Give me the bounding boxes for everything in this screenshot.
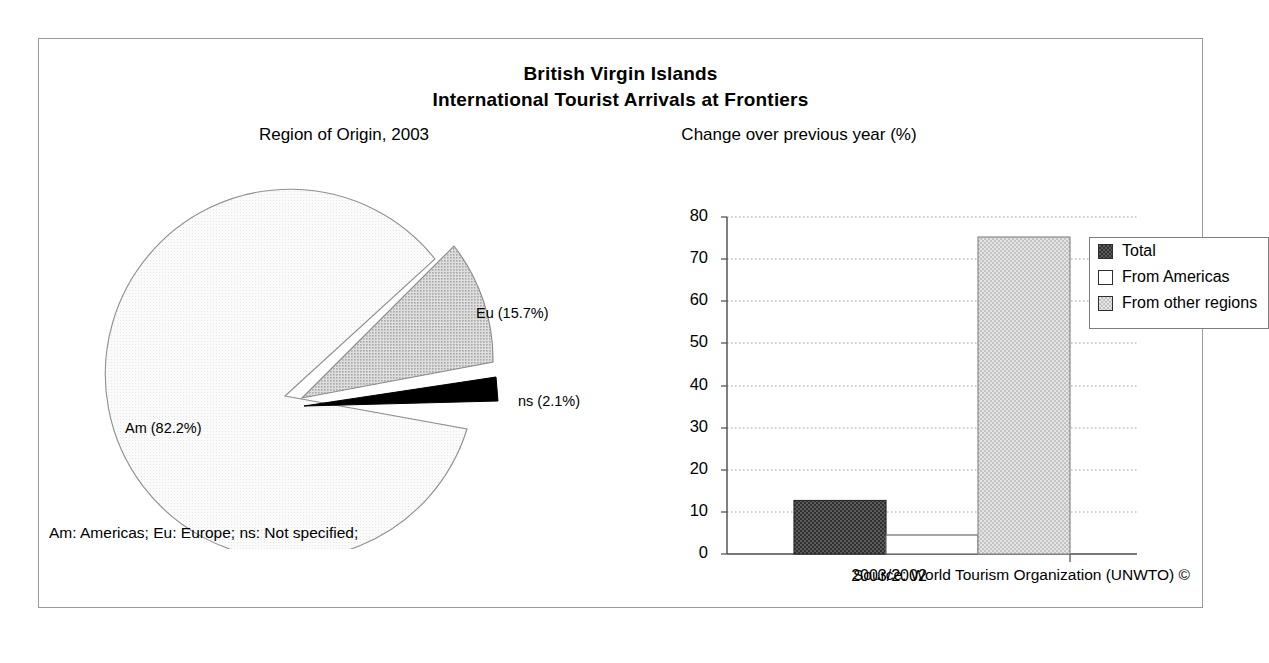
bar-from-other-regions (978, 237, 1070, 554)
pie-label-eu: Eu (15.7%) (476, 305, 549, 321)
pie-chart (99, 149, 619, 549)
legend-swatch-from-other-regions (1098, 296, 1113, 311)
legend-item-from-other-regions: From other regions (1090, 290, 1268, 316)
bar-from-americas (886, 535, 978, 554)
y-tick-label-80: 80 (674, 206, 708, 225)
y-tick-label-30: 30 (674, 417, 708, 436)
chart-title-line-1: British Virgin Islands (39, 63, 1202, 85)
y-tick-label-40: 40 (674, 375, 708, 394)
legend-swatch-from-americas (1098, 270, 1113, 285)
chart-frame: British Virgin Islands International Tou… (38, 38, 1203, 608)
chart-title-line-2: International Tourist Arrivals at Fronti… (39, 89, 1202, 111)
legend-item-total: Total (1090, 238, 1268, 264)
bar-chart-legend: Total From Americas From other regions (1089, 237, 1269, 329)
y-tick-label-60: 60 (674, 290, 708, 309)
pie-label-am: Am (82.2%) (125, 420, 202, 436)
gridlines (727, 217, 1137, 512)
source-attribution: Source: World Tourism Organization (UNWT… (853, 566, 1190, 584)
legend-label-total: Total (1122, 242, 1156, 260)
pie-chart-subtitle: Region of Origin, 2003 (189, 125, 499, 145)
pie-chart-svg (99, 149, 619, 549)
bar-chart: 80 70 60 50 40 30 20 10 0 2003/2002 Tota… (604, 134, 1194, 574)
legend-label-from-americas: From Americas (1122, 268, 1230, 286)
y-tick-label-70: 70 (674, 248, 708, 267)
footnote-abbreviations: Am: Americas; Eu: Europe; ns: Not specif… (49, 524, 358, 542)
bar-total (794, 501, 886, 555)
legend-label-from-other-regions: From other regions (1122, 294, 1257, 312)
y-axis-ticks (721, 217, 727, 554)
y-tick-label-0: 0 (674, 543, 708, 562)
pie-label-ns: ns (2.1%) (518, 393, 580, 409)
y-tick-label-50: 50 (674, 332, 708, 351)
y-tick-label-20: 20 (674, 459, 708, 478)
y-tick-label-10: 10 (674, 501, 708, 520)
legend-swatch-total (1098, 244, 1113, 259)
legend-item-from-americas: From Americas (1090, 264, 1268, 290)
